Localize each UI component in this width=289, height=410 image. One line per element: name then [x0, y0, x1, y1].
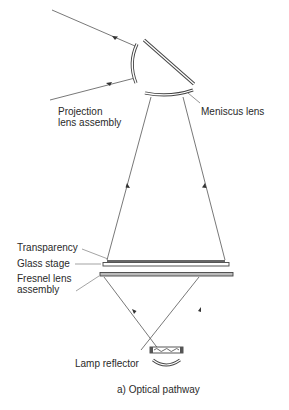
ray-right-upper — [183, 97, 225, 260]
caption: a) Optical pathway — [117, 384, 200, 395]
glass-stage — [103, 263, 229, 267]
label-lamp-reflector: Lamp reflector — [75, 358, 139, 369]
ray-right-lower — [141, 277, 201, 350]
optical-pathway-diagram — [0, 0, 289, 410]
label-meniscus-lens: Meniscus lens — [201, 106, 264, 117]
ray-left-lower — [104, 277, 159, 350]
fresnel-lens-assembly — [100, 273, 233, 277]
transparency — [107, 260, 225, 262]
label-transparency: Transparency — [17, 242, 78, 253]
label-fresnel-lens: Fresnel lens assembly — [17, 273, 71, 295]
lamp — [150, 347, 183, 353]
output-ray-upper — [52, 10, 135, 46]
label-projection-lens: Projection lens assembly — [58, 106, 121, 128]
label-glass-stage: Glass stage — [17, 258, 70, 269]
output-ray-lower — [50, 78, 135, 100]
